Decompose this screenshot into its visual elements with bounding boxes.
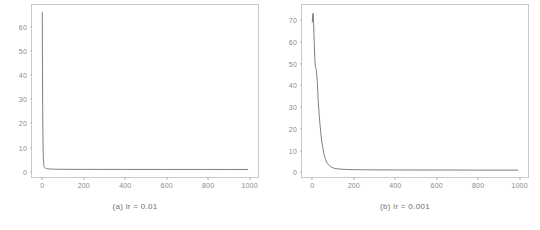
x-tick-mark — [208, 177, 209, 180]
y-tick-label: 40 — [289, 82, 297, 89]
x-tick-mark — [353, 177, 354, 180]
y-tick-label: 30 — [289, 104, 297, 111]
x-tick-mark — [42, 177, 43, 180]
y-tick-mark — [30, 123, 33, 124]
panel-a: 0102030405060 02004006008001000 (a) lr =… — [0, 0, 270, 230]
y-tick-mark — [30, 75, 33, 76]
x-tick-mark — [83, 177, 84, 180]
y-tick-label: 20 — [19, 120, 27, 127]
y-tick-label: 30 — [19, 96, 27, 103]
x-tick-label: 400 — [389, 182, 401, 189]
caption-b: (b) lr = 0.001 — [270, 203, 540, 211]
y-tick-mark — [30, 26, 33, 27]
x-tick-mark — [125, 177, 126, 180]
x-tick-label: 1000 — [241, 182, 257, 189]
x-tick-mark — [478, 177, 479, 180]
y-tick-mark — [300, 128, 303, 129]
x-tick-label: 600 — [161, 182, 173, 189]
x-tick-mark — [166, 177, 167, 180]
x-tick-label: 0 — [40, 182, 44, 189]
x-tick-mark — [249, 177, 250, 180]
y-tick-label: 60 — [19, 23, 27, 30]
plot-area-b: 010203040506070 02004006008001000 — [301, 4, 529, 178]
x-tick-label: 0 — [310, 182, 314, 189]
x-tick-label: 600 — [431, 182, 443, 189]
x-tick-label: 1000 — [511, 182, 527, 189]
y-tick-mark — [300, 41, 303, 42]
caption-a: (a) lr = 0.01 — [0, 203, 270, 211]
y-tick-mark — [300, 20, 303, 21]
panel-b: 010203040506070 02004006008001000 (b) lr… — [270, 0, 540, 230]
figure-container: 0102030405060 02004006008001000 (a) lr =… — [0, 0, 540, 230]
y-tick-mark — [300, 63, 303, 64]
y-tick-mark — [300, 150, 303, 151]
y-tick-label: 10 — [19, 144, 27, 151]
x-tick-label: 800 — [202, 182, 214, 189]
x-tick-mark — [395, 177, 396, 180]
x-tick-mark — [312, 177, 313, 180]
y-tick-label: 50 — [289, 60, 297, 67]
loss-curve-a — [32, 5, 258, 177]
x-tick-label: 400 — [119, 182, 131, 189]
y-tick-mark — [30, 147, 33, 148]
y-tick-label: 20 — [289, 125, 297, 132]
y-tick-mark — [30, 50, 33, 51]
x-tick-label: 200 — [348, 182, 360, 189]
y-tick-label: 60 — [289, 38, 297, 45]
x-tick-mark — [436, 177, 437, 180]
y-tick-mark — [300, 107, 303, 108]
y-tick-label: 40 — [19, 72, 27, 79]
y-tick-mark — [300, 85, 303, 86]
y-tick-mark — [300, 172, 303, 173]
loss-curve-b — [302, 5, 528, 177]
x-tick-label: 800 — [472, 182, 484, 189]
y-tick-mark — [30, 99, 33, 100]
y-tick-label: 50 — [19, 47, 27, 54]
y-tick-label: 0 — [293, 169, 297, 176]
x-tick-mark — [519, 177, 520, 180]
y-tick-label: 0 — [23, 168, 27, 175]
x-tick-label: 200 — [78, 182, 90, 189]
y-tick-label: 70 — [289, 17, 297, 24]
plot-area-a: 0102030405060 02004006008001000 — [31, 4, 259, 178]
y-tick-label: 10 — [289, 147, 297, 154]
y-tick-mark — [30, 171, 33, 172]
